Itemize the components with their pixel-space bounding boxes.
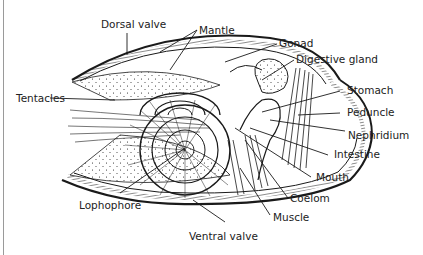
label-ventral-valve: Ventral valve (189, 231, 258, 242)
label-mouth: Mouth (316, 172, 349, 183)
label-gonad: Gonad (279, 38, 313, 49)
diagram-frame: Dorsal valve Mantle Gonad Digestive glan… (0, 0, 423, 255)
label-coelom: Coelom (290, 193, 330, 204)
label-dorsal-valve: Dorsal valve (101, 19, 166, 30)
digestive-gland-shape (255, 59, 288, 93)
label-stomach: Stomach (347, 85, 393, 96)
label-lophophore: Lophophore (79, 200, 141, 211)
label-peduncle: Peduncle (347, 107, 395, 118)
label-nephridium: Nephridium (348, 130, 409, 141)
label-mantle: Mantle (199, 25, 235, 36)
label-intestine: Intestine (334, 149, 380, 160)
label-digestive-gland: Digestive gland (296, 54, 378, 65)
label-tentacles: Tentacles (16, 93, 65, 104)
label-muscle: Muscle (273, 212, 309, 223)
brachiopod-illustration (0, 0, 423, 255)
tentacle-strands (68, 110, 210, 142)
